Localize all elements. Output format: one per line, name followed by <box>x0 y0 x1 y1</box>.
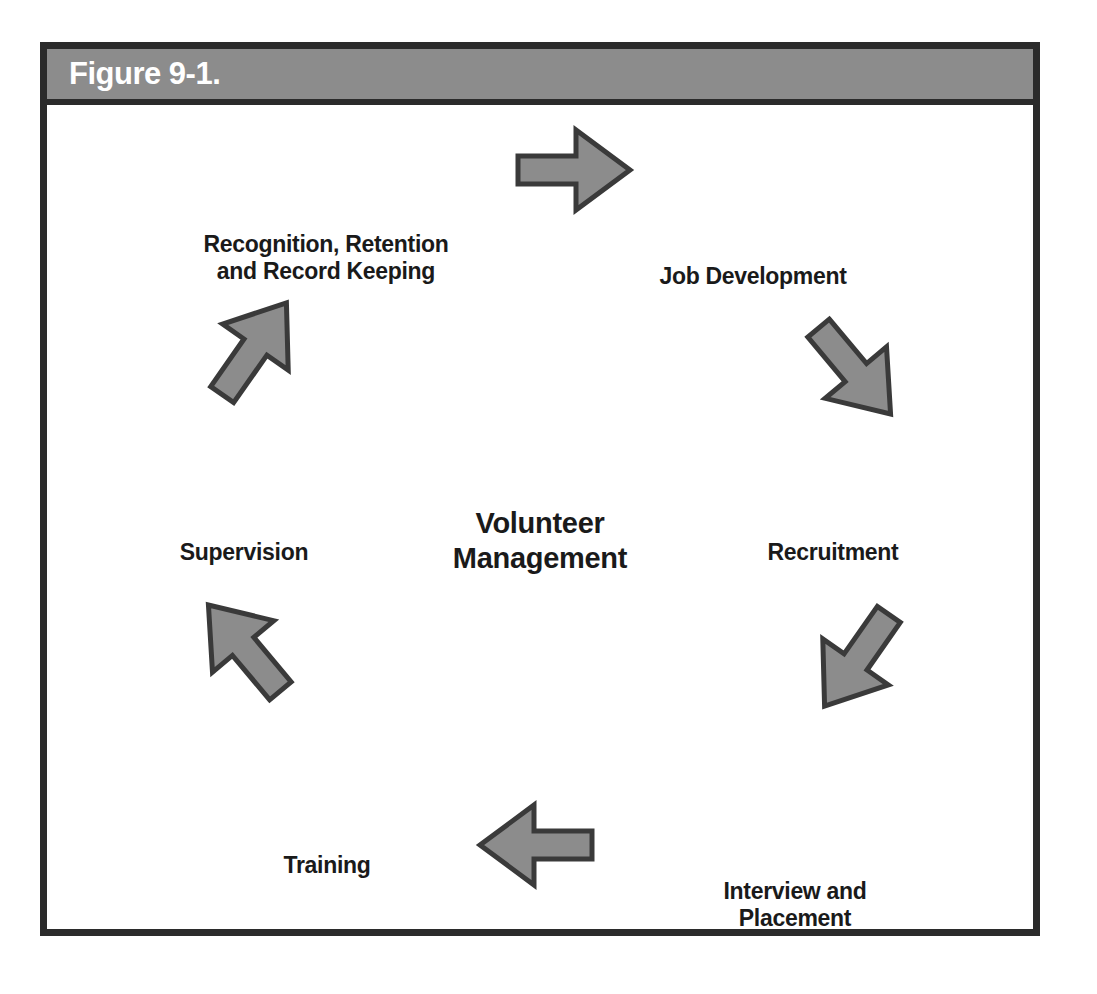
arrow-top-icon <box>518 130 630 210</box>
arrow-bottom-icon <box>480 805 592 885</box>
arrow-upper-right-icon <box>788 302 921 439</box>
center-label-volunteer-management: Volunteer Management <box>453 506 627 576</box>
arrow-lower-left-icon <box>178 579 311 716</box>
node-label-recruitment: Recruitment <box>768 539 899 566</box>
figure-caption: Figure 9-1. <box>69 56 220 92</box>
node-label-supervision: Supervision <box>180 539 308 566</box>
node-label-job-development: Job Development <box>659 263 846 290</box>
arrow-upper-left-icon <box>189 280 319 418</box>
node-label-recognition-retention-record-keeping: Recognition, Retention and Record Keepin… <box>203 231 448 285</box>
figure-frame: Figure 9-1. <box>40 42 1040 936</box>
figure-header-band: Figure 9-1. <box>47 49 1033 105</box>
node-label-interview-and-placement: Interview and Placement <box>723 878 866 932</box>
node-label-training: Training <box>283 852 370 879</box>
volunteer-management-cycle-diagram: Recognition, Retention and Record Keepin… <box>47 105 1033 937</box>
arrow-lower-right-icon <box>792 591 922 729</box>
